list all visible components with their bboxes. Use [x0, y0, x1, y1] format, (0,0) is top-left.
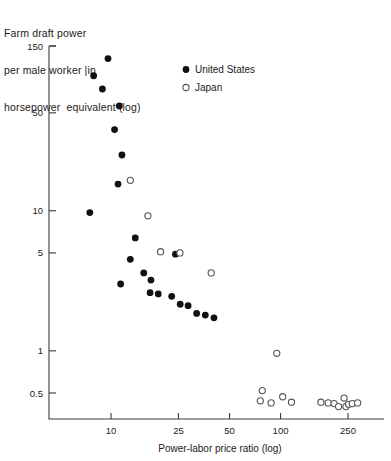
- data-point-japan: [177, 250, 183, 256]
- tick-labels: 0.5151050150102550100250: [27, 41, 356, 437]
- legend-label-united-states[interactable]: United States: [195, 64, 255, 75]
- y-tick-label-50: 50: [32, 107, 43, 118]
- data-point-united-states: [202, 312, 209, 319]
- data-point-japan: [335, 403, 341, 409]
- data-point-japan: [318, 399, 324, 405]
- data-point-japan: [268, 400, 274, 406]
- data-point-united-states: [86, 209, 93, 216]
- data-point-japan: [145, 213, 151, 219]
- data-point-japan: [257, 398, 263, 404]
- data-point-japan: [288, 399, 294, 405]
- data-point-japan: [208, 270, 214, 276]
- data-point-japan: [127, 177, 133, 183]
- data-point-japan: [259, 388, 265, 394]
- y-tick-label-5: 5: [38, 247, 43, 258]
- axes: [49, 46, 384, 419]
- chart-page: Farm draft power per male worker |in hor…: [0, 0, 391, 461]
- data-point-united-states: [116, 103, 123, 110]
- data-point-united-states: [115, 181, 122, 188]
- data-point-united-states: [185, 302, 192, 309]
- legend-marker-united-states: [183, 66, 190, 73]
- data-point-united-states: [117, 281, 124, 288]
- data-point-united-states: [147, 289, 154, 296]
- scatter-plot: 0.5151050150102550100250 United StatesJa…: [0, 0, 391, 461]
- data-point-japan: [280, 394, 286, 400]
- data-point-united-states: [155, 290, 162, 297]
- data-point-japan: [325, 400, 331, 406]
- data-point-united-states: [211, 314, 218, 321]
- data-point-united-states: [90, 72, 97, 79]
- data-point-united-states: [132, 235, 139, 242]
- data-point-united-states: [148, 277, 155, 284]
- data-point-united-states: [193, 310, 200, 317]
- x-tick-label-250: 250: [340, 425, 356, 436]
- data-point-japan: [355, 400, 361, 406]
- data-point-united-states: [119, 152, 126, 159]
- data-point-united-states: [127, 256, 134, 263]
- data-point-united-states: [111, 126, 118, 133]
- data-point-united-states: [99, 86, 106, 93]
- x-tick-label-50: 50: [224, 425, 235, 436]
- x-tick-label-100: 100: [273, 425, 289, 436]
- tick-marks: [49, 46, 348, 419]
- legend-marker-japan: [183, 84, 189, 90]
- axis-frame: [49, 46, 384, 419]
- data-point-united-states: [105, 55, 112, 62]
- x-tick-label-25: 25: [173, 425, 184, 436]
- data-points: [86, 55, 360, 410]
- legend-label-japan[interactable]: Japan: [195, 82, 222, 93]
- legend[interactable]: United StatesJapan: [183, 64, 255, 93]
- x-axis-title: Power-labor price ratio (log): [158, 443, 281, 454]
- data-point-japan: [341, 395, 347, 401]
- data-point-united-states: [168, 293, 175, 300]
- y-tick-label-10: 10: [32, 205, 43, 216]
- y-tick-label-150: 150: [27, 41, 43, 52]
- data-point-japan: [274, 350, 280, 356]
- x-tick-label-10: 10: [106, 425, 117, 436]
- data-point-japan: [157, 249, 163, 255]
- y-tick-label-0.5: 0.5: [30, 388, 43, 399]
- data-point-united-states: [177, 301, 184, 308]
- y-tick-label-1: 1: [38, 345, 43, 356]
- data-point-united-states: [140, 270, 147, 277]
